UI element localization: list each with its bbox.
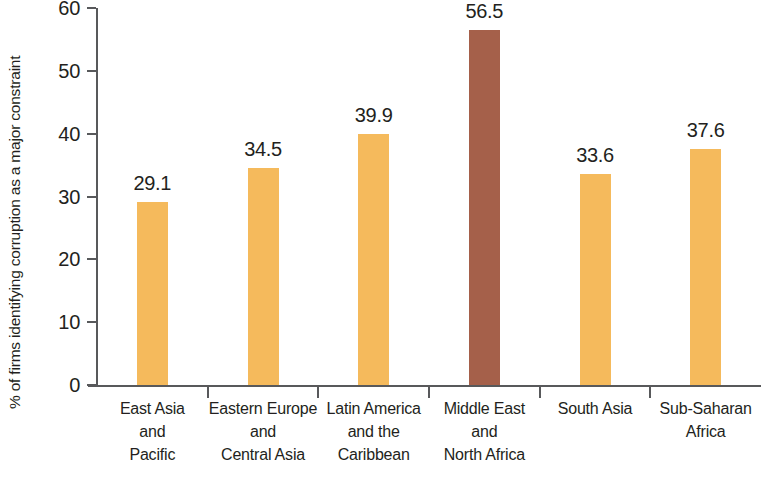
category-label-line: and	[90, 420, 214, 443]
bar	[137, 202, 168, 385]
y-tick-mark	[87, 258, 96, 260]
y-tick-label: 0	[34, 375, 80, 395]
bars-layer	[97, 8, 761, 385]
category-label-line: South Asia	[533, 397, 657, 420]
category-label-line: Middle East	[422, 397, 546, 420]
y-tick-label: 10	[34, 312, 80, 332]
x-axis-line	[88, 385, 761, 387]
category-label-line: North Africa	[422, 443, 546, 466]
y-tick-mark	[87, 321, 96, 323]
bar-value-label: 39.9	[329, 105, 419, 125]
bar-value-label: 33.6	[550, 145, 640, 165]
category-label-line: East Asia	[90, 397, 214, 420]
bar-value-label: 29.1	[107, 173, 197, 193]
category-label-line: Latin America	[312, 397, 436, 420]
category-label-line: Eastern Europe	[201, 397, 325, 420]
bar-value-label: 56.5	[439, 1, 529, 21]
y-tick-label: 60	[34, 0, 80, 18]
bar-value-label: 34.5	[218, 139, 308, 159]
y-tick-label: 30	[34, 187, 80, 207]
y-tick-label: 40	[34, 124, 80, 144]
category-label-line: and the	[312, 420, 436, 443]
category-label-line: Pacific	[90, 443, 214, 466]
category-label: Middle EastandNorth Africa	[422, 397, 546, 466]
bar	[690, 149, 721, 385]
bar-chart: % of firms identifying corruption as a m…	[0, 0, 781, 480]
y-tick-mark	[87, 384, 96, 386]
category-label-line: Caribbean	[312, 443, 436, 466]
category-label-line: Central Asia	[201, 443, 325, 466]
y-axis-title: % of firms identifying corruption as a m…	[2, 9, 28, 409]
category-label: East AsiaandPacific	[90, 397, 214, 466]
category-label-line: Africa	[644, 420, 768, 443]
category-label: South Asia	[533, 397, 657, 420]
bar-value-label: 37.6	[661, 120, 751, 140]
category-label: Eastern EuropeandCentral Asia	[201, 397, 325, 466]
category-label: Sub-SaharanAfrica	[644, 397, 768, 443]
y-tick-mark	[87, 70, 96, 72]
y-tick-mark	[87, 196, 96, 198]
category-label: Latin Americaand theCaribbean	[312, 397, 436, 466]
category-label-line: and	[422, 420, 546, 443]
y-tick-mark	[87, 7, 96, 9]
y-tick-label: 20	[34, 249, 80, 269]
y-tick-label: 50	[34, 61, 80, 81]
bar	[469, 30, 500, 385]
bar	[248, 168, 279, 385]
bar	[580, 174, 611, 385]
bar	[358, 134, 389, 385]
y-tick-mark	[87, 133, 96, 135]
category-label-line: Sub-Saharan	[644, 397, 768, 420]
category-label-line: and	[201, 420, 325, 443]
